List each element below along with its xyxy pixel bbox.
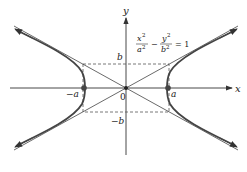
label-neg-b: −b (111, 116, 125, 126)
svg-text:= 1: = 1 (175, 40, 189, 49)
hyperbola-diagram: y x 0 −a a b −b x 2 a 2 − y 2 b 2 = 1 (0, 0, 247, 172)
vertex-left (81, 85, 87, 91)
origin-point (124, 86, 128, 90)
y-axis-label: y (122, 5, 129, 16)
x-axis-label: x (235, 83, 241, 94)
label-a: a (171, 89, 176, 99)
svg-text:2: 2 (167, 32, 171, 38)
label-neg-a: −a (66, 89, 79, 99)
svg-text:−: − (151, 40, 158, 49)
svg-text:2: 2 (142, 44, 146, 50)
svg-text:2: 2 (166, 44, 170, 50)
hyperbola-equation: x 2 a 2 − y 2 b 2 = 1 (136, 32, 189, 54)
label-b: b (117, 52, 123, 62)
svg-text:2: 2 (142, 32, 146, 38)
vertex-right (165, 85, 171, 91)
origin-label: 0 (120, 92, 126, 102)
